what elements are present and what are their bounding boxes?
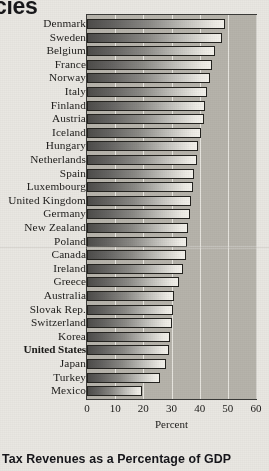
bar-row	[87, 384, 256, 399]
bar-italy	[87, 87, 207, 97]
bar-poland	[87, 237, 187, 247]
bar-new-zealand	[87, 223, 188, 233]
x-tick-50: 50	[222, 402, 233, 414]
figure-caption: Tax Revenues as a Percentage of GDP	[2, 452, 231, 466]
bar-luxembourg	[87, 182, 193, 192]
bar-chart: DenmarkSwedenBelgiumFranceNorwayItalyFin…	[0, 14, 269, 414]
bar-ireland	[87, 264, 183, 274]
bar-greece	[87, 277, 179, 287]
bar-belgium	[87, 46, 215, 56]
gridline-60	[256, 15, 257, 399]
category-label-mexico: Mexico	[2, 383, 86, 398]
bar-korea	[87, 332, 170, 342]
x-tick-60: 60	[251, 402, 262, 414]
bar-united-states	[87, 345, 169, 355]
x-tick-30: 30	[166, 402, 177, 414]
bar-slovak-rep	[87, 305, 173, 315]
bar-denmark	[87, 19, 225, 29]
bar-australia	[87, 291, 174, 301]
x-tick-10: 10	[110, 402, 121, 414]
bar-sweden	[87, 33, 222, 43]
bar-canada	[87, 250, 186, 260]
bar-turkey	[87, 373, 160, 383]
bar-germany	[87, 209, 190, 219]
bar-netherlands	[87, 155, 197, 165]
x-axis-ticks: 0102030405060	[86, 402, 257, 418]
bar-norway	[87, 73, 210, 83]
bar-japan	[87, 359, 166, 369]
bar-switzerland	[87, 318, 172, 328]
bar-finland	[87, 101, 205, 111]
x-tick-20: 20	[138, 402, 149, 414]
bar-austria	[87, 114, 204, 124]
bar-spain	[87, 169, 194, 179]
bar-hungary	[87, 141, 198, 151]
plot-area	[86, 14, 257, 400]
x-tick-0: 0	[84, 402, 90, 414]
bar-united-kingdom	[87, 196, 191, 206]
bar-mexico	[87, 386, 142, 396]
bar-iceland	[87, 128, 201, 138]
bar-france	[87, 60, 212, 70]
x-tick-40: 40	[194, 402, 205, 414]
x-axis-title: Percent	[86, 418, 257, 430]
